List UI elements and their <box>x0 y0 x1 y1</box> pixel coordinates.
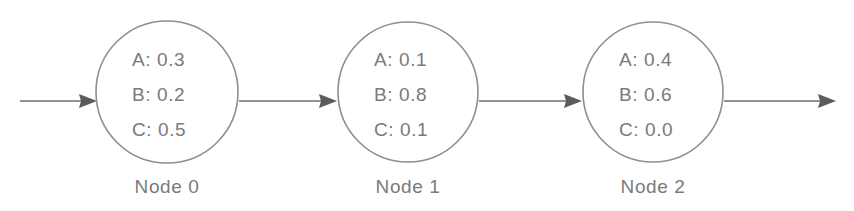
node-chain-diagram: A: 0.3 B: 0.2 C: 0.5 Node 0 A: 0.1 B: 0.… <box>0 0 854 211</box>
arrow-head-icon <box>564 94 582 108</box>
edge-input-to-node-0 <box>20 94 97 108</box>
node-caption: Node 1 <box>376 176 441 197</box>
arrow-head-icon <box>319 94 337 108</box>
node-1[interactable]: A: 0.1 B: 0.8 C: 0.1 Node 1 <box>338 22 478 197</box>
edge-node-2-to-output <box>724 94 836 108</box>
node-0[interactable]: A: 0.3 B: 0.2 C: 0.5 Node 0 <box>96 21 238 197</box>
node-value-line: C: 0.0 <box>619 119 673 140</box>
node-2[interactable]: A: 0.4 B: 0.6 C: 0.0 Node 2 <box>583 22 723 197</box>
arrow-head-icon <box>79 94 97 108</box>
node-value-line: B: 0.8 <box>374 84 427 105</box>
node-caption: Node 2 <box>621 176 686 197</box>
diagram-canvas: A: 0.3 B: 0.2 C: 0.5 Node 0 A: 0.1 B: 0.… <box>0 0 854 211</box>
arrow-head-icon <box>818 94 836 108</box>
node-value-line: B: 0.6 <box>619 84 672 105</box>
node-value-line: A: 0.4 <box>619 49 672 70</box>
edge-node-1-to-node-2 <box>479 94 582 108</box>
edge-node-0-to-node-1 <box>239 94 337 108</box>
node-value-line: A: 0.1 <box>374 49 427 70</box>
node-value-line: A: 0.3 <box>132 49 185 70</box>
node-caption: Node 0 <box>135 176 200 197</box>
node-value-line: B: 0.2 <box>132 84 185 105</box>
node-value-line: C: 0.1 <box>374 119 428 140</box>
node-value-line: C: 0.5 <box>132 119 186 140</box>
